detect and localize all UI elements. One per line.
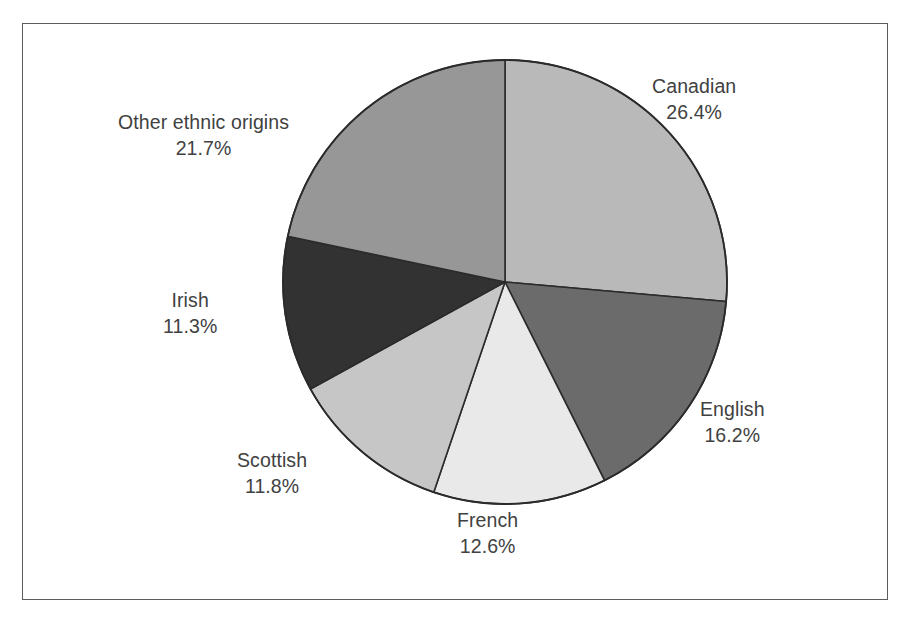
pie-label-scottish-value: 11.8%: [237, 474, 307, 500]
pie-label-french: French 12.6%: [457, 508, 518, 560]
pie-label-english: English 16.2%: [700, 397, 765, 449]
pie-label-other-ethnic-origins-name: Other ethnic origins: [118, 110, 289, 136]
pie-label-french-name: French: [457, 508, 518, 534]
pie-label-french-value: 12.6%: [457, 534, 518, 560]
pie-slice-group: [283, 60, 727, 504]
pie-label-english-value: 16.2%: [700, 423, 765, 449]
pie-label-irish: Irish 11.3%: [163, 288, 217, 340]
pie-label-english-name: English: [700, 397, 765, 423]
pie-label-irish-name: Irish: [163, 288, 217, 314]
pie-label-other-ethnic-origins: Other ethnic origins 21.7%: [118, 110, 289, 162]
pie-chart-svg: [0, 0, 910, 621]
pie-label-canadian-name: Canadian: [652, 74, 736, 100]
pie-label-canadian: Canadian 26.4%: [652, 74, 736, 126]
pie-label-scottish-name: Scottish: [237, 448, 307, 474]
pie-chart: Canadian 26.4% English 16.2% French 12.6…: [0, 0, 910, 621]
pie-label-canadian-value: 26.4%: [652, 100, 736, 126]
chart-figure: Canadian 26.4% English 16.2% French 12.6…: [0, 0, 910, 621]
pie-label-irish-value: 11.3%: [163, 314, 217, 340]
pie-label-other-ethnic-origins-value: 21.7%: [118, 136, 289, 162]
pie-label-scottish: Scottish 11.8%: [237, 448, 307, 500]
